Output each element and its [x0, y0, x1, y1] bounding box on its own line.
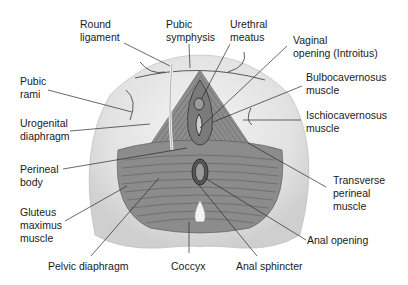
label-vaginal-opening: Vaginal opening (Introitus) — [293, 34, 378, 60]
label-pubic-symphysis: Pubic symphysis — [166, 18, 215, 44]
label-line: Pubic — [20, 75, 46, 88]
label-line: Transverse — [333, 174, 385, 187]
label-line: opening (Introitus) — [293, 47, 378, 60]
label-ischiocavernosus: Ischiocavernosus muscle — [306, 109, 387, 135]
label-line: body — [20, 176, 59, 189]
label-line: Urethral — [230, 18, 267, 31]
label-coccyx: Coccyx — [171, 260, 205, 273]
label-line: Coccyx — [171, 260, 205, 273]
anal-opening — [196, 163, 205, 181]
label-line: rami — [20, 88, 46, 101]
label-anal-opening: Anal opening — [307, 234, 368, 247]
label-line: perineal — [333, 187, 385, 200]
label-line: symphysis — [166, 31, 215, 44]
label-line: Vaginal — [293, 34, 378, 47]
label-line: Urogenital — [20, 117, 70, 130]
label-transverse-perineal: Transverse perineal muscle — [333, 174, 385, 213]
label-line: Perineal — [20, 163, 59, 176]
label-line: meatus — [230, 31, 267, 44]
label-line: muscle — [306, 84, 387, 97]
label-urogenital-diaphragm: Urogenital diaphragm — [20, 117, 70, 143]
label-line: Ischiocavernosus — [306, 109, 387, 122]
label-gluteus-maximus: Gluteus maximus muscle — [20, 206, 62, 245]
label-line: ligament — [80, 31, 120, 44]
label-line: muscle — [333, 200, 385, 213]
label-line: Anal sphincter — [236, 260, 303, 273]
label-line: Pelvic diaphragm — [48, 260, 129, 273]
label-perineal-body: Perineal body — [20, 163, 59, 189]
label-line: Pubic — [166, 18, 215, 31]
label-anal-sphincter: Anal sphincter — [236, 260, 303, 273]
label-pelvic-diaphragm: Pelvic diaphragm — [48, 260, 129, 273]
label-line: Gluteus — [20, 206, 62, 219]
urethral-meatus — [194, 98, 204, 110]
label-line: Round — [80, 18, 120, 31]
label-pubic-rami: Pubic rami — [20, 75, 46, 101]
label-line: muscle — [306, 122, 387, 135]
label-line: diaphragm — [20, 130, 70, 143]
label-round-ligament: Round ligament — [80, 18, 120, 44]
label-urethral-meatus: Urethral meatus — [230, 18, 267, 44]
label-line: maximus — [20, 219, 62, 232]
label-line: Bulbocavernosus — [306, 71, 387, 84]
label-line: Anal opening — [307, 234, 368, 247]
label-line: muscle — [20, 232, 62, 245]
label-bulbocavernosus: Bulbocavernosus muscle — [306, 71, 387, 97]
